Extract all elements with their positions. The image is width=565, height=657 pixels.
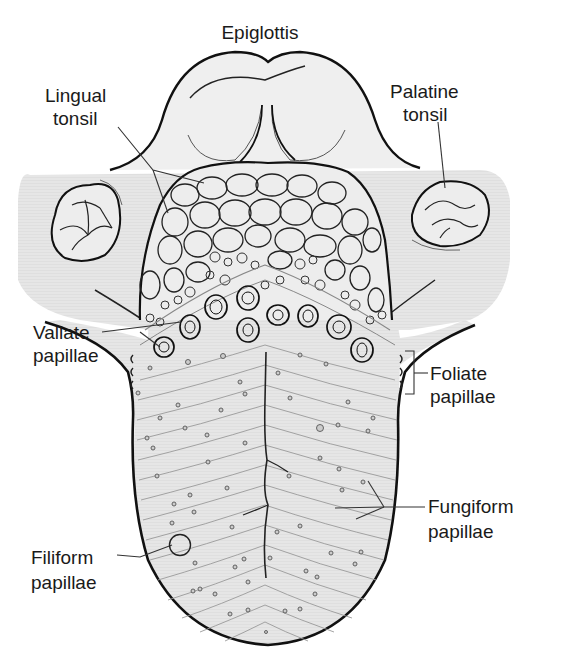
tongue-diagram: Epiglottis Lingual tonsil Palatine tonsi… [0,0,565,657]
label-foliate-papillae-line2: papillae [430,384,496,409]
label-palatine-tonsil-line2: tonsil [403,102,447,127]
label-vallate-papillae-line2: papillae [33,343,99,368]
label-fungiform-papillae-line1: Fungiform [428,494,514,519]
epiglottis [110,52,420,170]
label-epiglottis: Epiglottis [205,20,315,45]
label-foliate-papillae-line1: Foliate [430,361,487,386]
label-filiform-papillae-line1: Filiform [31,545,93,570]
label-palatine-tonsil-line1: Palatine [390,79,459,104]
label-filiform-papillae-line2: papillae [31,570,97,595]
label-lingual-tonsil-line2: tonsil [53,106,97,131]
label-fungiform-papillae-line2: papillae [428,519,494,544]
label-lingual-tonsil-line1: Lingual [45,83,106,108]
label-vallate-papillae-line1: Vallate [33,320,90,345]
